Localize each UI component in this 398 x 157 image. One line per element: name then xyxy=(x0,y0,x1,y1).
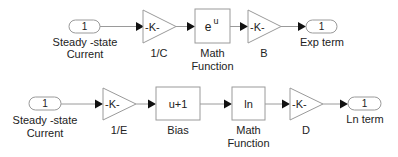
inport-label-line1: Steady -state xyxy=(53,36,118,48)
gain-text: -K- xyxy=(250,21,265,33)
math-label-line1: Math xyxy=(236,124,260,136)
math-label-line2: Function xyxy=(227,137,269,149)
gain-text: -K- xyxy=(292,98,307,110)
arrow-head-icon xyxy=(95,100,103,109)
outport-label: Exp term xyxy=(300,36,344,48)
row-ln-term: 1 Steady -state Current -K- 1/E u+1 Bias… xyxy=(13,87,384,149)
arrow-head-icon xyxy=(187,22,195,31)
math-function-ln-block[interactable]: ln xyxy=(232,87,265,120)
inport-number: 1 xyxy=(82,21,88,32)
gain-block-1-over-c[interactable]: -K- xyxy=(143,10,176,43)
inport-label-line2: Current xyxy=(27,127,64,139)
arrow-head-icon xyxy=(340,100,348,109)
math-label-line1: Math xyxy=(200,47,224,59)
math-label-line2: Function xyxy=(191,60,233,72)
bias-block[interactable]: u+1 xyxy=(156,87,200,120)
inport-steady-state-current-1[interactable]: 1 xyxy=(69,20,100,33)
gain-block-b[interactable]: -K- xyxy=(248,10,281,43)
gain-label: 1/C xyxy=(150,47,167,59)
outport-exp-term[interactable]: 1 xyxy=(306,20,337,33)
inport-steady-state-current-2[interactable]: 1 xyxy=(29,97,61,110)
inport-number: 1 xyxy=(42,98,48,109)
simulink-diagram: 1 Steady -state Current -K- 1/C e u Math… xyxy=(0,0,398,157)
outport-number: 1 xyxy=(362,98,368,109)
outport-label: Ln term xyxy=(346,113,383,125)
arrow-head-icon xyxy=(298,22,306,31)
bias-label: Bias xyxy=(167,124,189,136)
inport-label-line1: Steady -state xyxy=(13,114,78,126)
outport-number: 1 xyxy=(319,21,325,32)
gain-text: -K- xyxy=(145,21,160,33)
math-exponent: u xyxy=(213,16,218,26)
arrow-head-icon xyxy=(282,100,290,109)
arrow-head-icon xyxy=(148,100,156,109)
math-function-exp-block[interactable]: e u xyxy=(195,9,230,43)
gain-block-1-over-e[interactable]: -K- xyxy=(103,88,136,120)
bias-text: u+1 xyxy=(169,98,188,110)
gain-block-d[interactable]: -K- xyxy=(290,88,323,120)
outport-ln-term[interactable]: 1 xyxy=(348,97,381,110)
math-text: ln xyxy=(244,98,253,110)
gain-text: -K- xyxy=(105,98,120,110)
arrow-head-icon xyxy=(224,100,232,109)
arrow-head-icon xyxy=(240,22,248,31)
gain-label: 1/E xyxy=(111,124,128,136)
gain-label: B xyxy=(260,47,267,59)
inport-label-line2: Current xyxy=(67,48,104,60)
row-exp-term: 1 Steady -state Current -K- 1/C e u Math… xyxy=(53,9,344,72)
math-base: e xyxy=(205,20,212,34)
gain-label: D xyxy=(302,124,310,136)
